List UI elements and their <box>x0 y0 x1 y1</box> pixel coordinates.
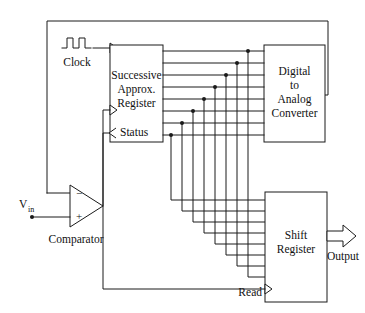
sar-line-1: Successive <box>111 69 161 81</box>
vin-subscript-label: in <box>28 205 34 214</box>
junction-dot-1 <box>169 133 173 137</box>
junction-dot-3 <box>191 109 195 113</box>
sar-to-dac-bus <box>163 51 264 135</box>
adc-block-diagram: Clock Successive Approx. Register Status… <box>0 0 365 313</box>
tap-wire-6 <box>226 75 265 255</box>
bus-junction-dots <box>169 49 250 137</box>
dac-line-3: Analog <box>278 93 312 106</box>
bus-to-shift-register-taps <box>171 51 265 277</box>
tap-wire-8 <box>248 51 265 277</box>
tap-wire-2 <box>182 123 265 211</box>
junction-dot-4 <box>202 97 206 101</box>
tap-wire-7 <box>237 63 265 266</box>
sar-line-2: Approx. <box>117 83 155 96</box>
vin-label: V <box>19 198 28 210</box>
clock-waveform-icon <box>62 38 91 48</box>
junction-dot-7 <box>235 61 239 65</box>
tap-wire-4 <box>204 99 265 233</box>
tap-wire-1 <box>171 135 265 200</box>
output-bus-arrow-icon <box>327 225 356 247</box>
comparator-label: Comparator <box>49 233 104 246</box>
sar-line-3: Register <box>117 97 155 110</box>
shift-register-line-1: Shift <box>285 229 308 241</box>
junction-dot-2 <box>180 121 184 125</box>
status-label: Status <box>120 126 149 138</box>
comparator-minus-sign: − <box>76 187 82 199</box>
diagram-canvas: Clock Successive Approx. Register Status… <box>0 0 365 313</box>
junction-dot-6 <box>224 73 228 77</box>
junction-dot-8 <box>246 49 250 53</box>
dac-line-4: Converter <box>272 107 318 119</box>
comparator-plus-sign: + <box>76 210 82 222</box>
vin-terminal-dot <box>30 215 34 219</box>
clock-label: Clock <box>63 56 91 68</box>
read-label: Read <box>238 286 262 298</box>
shift-register-line-2: Register <box>277 243 315 256</box>
comparator-output-to-sar-wire <box>103 110 110 206</box>
dac-line-2: to <box>290 79 299 91</box>
junction-dot-5 <box>213 85 217 89</box>
output-label: Output <box>327 250 360 263</box>
dac-line-1: Digital <box>279 65 311 78</box>
